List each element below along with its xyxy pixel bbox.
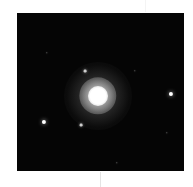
star (46, 52, 47, 53)
cluster-core (88, 86, 108, 106)
star (80, 124, 83, 127)
star (169, 92, 173, 96)
star (116, 162, 117, 163)
star (166, 132, 167, 133)
bottom-guide-line (100, 172, 101, 187)
star (84, 70, 87, 73)
star (42, 120, 46, 124)
star (134, 70, 135, 71)
astronomical-image (17, 13, 184, 171)
top-guide-line (145, 0, 146, 12)
